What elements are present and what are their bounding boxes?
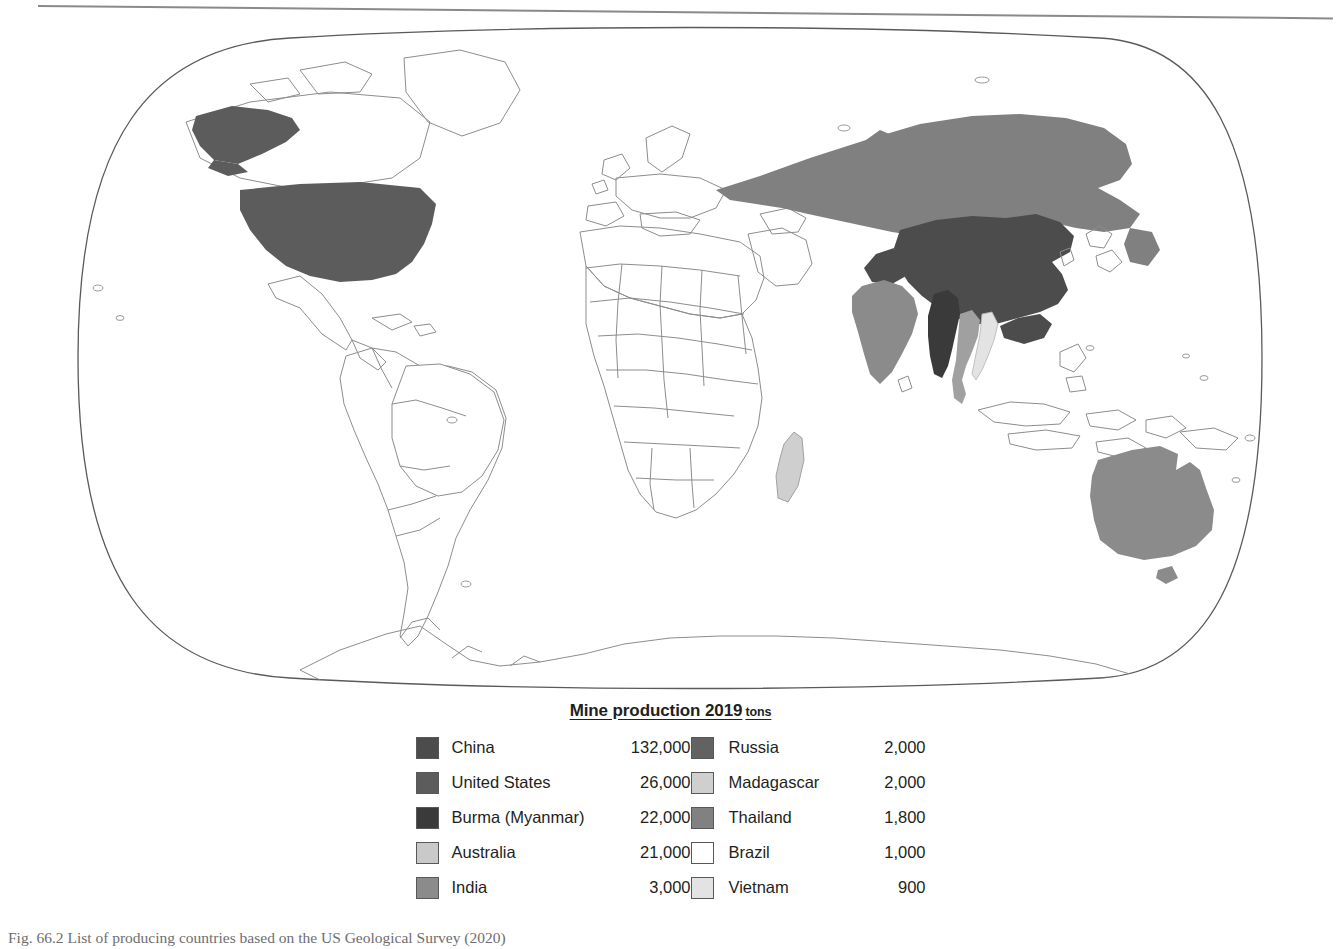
legend-column-left: China 132,000 United States 26,000 Burma… bbox=[416, 730, 691, 905]
legend-label-burma-myanmar: Burma (Myanmar) bbox=[452, 808, 617, 827]
legend-value-united-states: 26,000 bbox=[617, 773, 691, 792]
legend-swatch-australia bbox=[416, 842, 439, 864]
figure-page: Mine production 2019tons China 132,000 U… bbox=[0, 0, 1341, 949]
legend-label-united-states: United States bbox=[452, 773, 617, 792]
map-legend: Mine production 2019tons China 132,000 U… bbox=[0, 698, 1341, 905]
legend-row-vietnam[interactable]: Vietnam 900 bbox=[691, 870, 926, 905]
legend-row-china[interactable]: China 132,000 bbox=[416, 730, 691, 765]
legend-columns: China 132,000 United States 26,000 Burma… bbox=[0, 730, 1341, 905]
legend-row-united-states[interactable]: United States 26,000 bbox=[416, 765, 691, 800]
figure-caption: Fig. 66.2 List of producing countries ba… bbox=[8, 929, 868, 949]
legend-label-madagascar: Madagascar bbox=[727, 773, 868, 792]
legend-value-brazil: 1,000 bbox=[868, 843, 926, 862]
legend-row-brazil[interactable]: Brazil 1,000 bbox=[691, 835, 926, 870]
legend-label-vietnam: Vietnam bbox=[727, 878, 868, 897]
legend-label-russia: Russia bbox=[727, 738, 868, 757]
legend-value-vietnam: 900 bbox=[868, 878, 926, 897]
legend-swatch-burma-myanmar bbox=[416, 807, 439, 829]
legend-value-russia: 2,000 bbox=[868, 738, 926, 757]
legend-swatch-russia bbox=[691, 737, 714, 759]
legend-title-unit: tons bbox=[742, 705, 771, 719]
world-map bbox=[0, 18, 1341, 698]
legend-title: Mine production 2019tons bbox=[0, 698, 1341, 724]
legend-value-thailand: 1,800 bbox=[868, 808, 926, 827]
legend-value-china: 132,000 bbox=[617, 738, 691, 757]
legend-row-thailand[interactable]: Thailand 1,800 bbox=[691, 800, 926, 835]
legend-value-burma-myanmar: 22,000 bbox=[617, 808, 691, 827]
legend-value-australia: 21,000 bbox=[617, 843, 691, 862]
legend-row-australia[interactable]: Australia 21,000 bbox=[416, 835, 691, 870]
legend-title-main: Mine production 2019 bbox=[570, 701, 743, 720]
legend-label-china: China bbox=[452, 738, 617, 757]
legend-row-burma-myanmar[interactable]: Burma (Myanmar) 22,000 bbox=[416, 800, 691, 835]
legend-swatch-united-states bbox=[416, 772, 439, 794]
new-zealand-outline bbox=[1248, 508, 1286, 570]
legend-swatch-thailand bbox=[691, 807, 714, 829]
legend-label-india: India bbox=[452, 878, 617, 897]
legend-row-india[interactable]: India 3,000 bbox=[416, 870, 691, 905]
legend-value-india: 3,000 bbox=[617, 878, 691, 897]
legend-swatch-vietnam bbox=[691, 877, 714, 899]
legend-column-right: Russia 2,000 Madagascar 2,000 Thailand 1… bbox=[691, 730, 926, 905]
legend-label-brazil: Brazil bbox=[727, 843, 868, 862]
legend-swatch-india bbox=[416, 877, 439, 899]
legend-label-thailand: Thailand bbox=[727, 808, 868, 827]
legend-row-madagascar[interactable]: Madagascar 2,000 bbox=[691, 765, 926, 800]
legend-swatch-madagascar bbox=[691, 772, 714, 794]
legend-value-madagascar: 2,000 bbox=[868, 773, 926, 792]
legend-swatch-china bbox=[416, 737, 439, 759]
legend-row-russia[interactable]: Russia 2,000 bbox=[691, 730, 926, 765]
legend-label-australia: Australia bbox=[452, 843, 617, 862]
legend-swatch-brazil bbox=[691, 842, 714, 864]
